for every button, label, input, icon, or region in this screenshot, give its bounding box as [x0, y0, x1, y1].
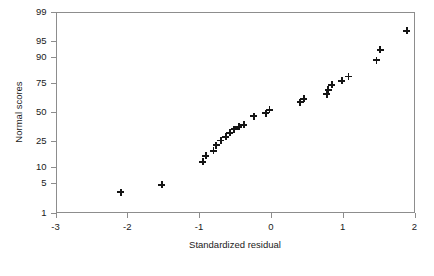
x-tick-label: -1: [184, 222, 214, 232]
y-tick-label: 1: [20, 208, 47, 218]
data-point-marker: [202, 152, 209, 159]
y-tick-mark: [51, 112, 56, 113]
data-point-marker: [377, 46, 384, 53]
marker-vertical-stroke: [269, 106, 271, 113]
y-tick-label: 95: [20, 36, 47, 46]
y-tick-mark: [51, 141, 56, 142]
x-tick-mark: [199, 213, 200, 218]
x-tick-mark: [127, 213, 128, 218]
y-tick-mark: [51, 83, 56, 84]
marker-vertical-stroke: [303, 95, 305, 102]
x-tick-label: -2: [112, 222, 142, 232]
data-point-marker: [250, 113, 257, 120]
x-tick-label: 0: [256, 222, 286, 232]
x-tick-label: 1: [328, 222, 358, 232]
marker-vertical-stroke: [341, 77, 343, 84]
marker-vertical-stroke: [243, 121, 245, 128]
y-tick-mark: [51, 57, 56, 58]
data-point-marker: [240, 121, 247, 128]
marker-vertical-stroke: [205, 152, 207, 159]
y-tick-mark: [51, 213, 56, 214]
x-tick-label: -3: [41, 222, 71, 232]
plot-area: [56, 12, 415, 213]
data-point-marker: [158, 181, 165, 188]
marker-vertical-stroke: [348, 73, 350, 80]
y-tick-label: 5: [20, 178, 47, 188]
data-point-marker: [266, 106, 273, 113]
data-point-marker: [403, 27, 410, 34]
data-point-marker: [328, 81, 335, 88]
marker-vertical-stroke: [120, 189, 122, 196]
y-tick-label: 90: [20, 52, 47, 62]
normal-probability-plot: 1510255075909599 -3-2-1012 Standardized …: [0, 0, 434, 276]
y-tick-label: 10: [20, 162, 47, 172]
marker-vertical-stroke: [161, 181, 163, 188]
y-tick-mark: [51, 183, 56, 184]
x-tick-mark: [56, 213, 57, 218]
marker-vertical-stroke: [379, 46, 381, 53]
marker-vertical-stroke: [376, 57, 378, 64]
x-tick-label: 2: [400, 222, 430, 232]
marker-vertical-stroke: [331, 81, 333, 88]
data-point-marker: [345, 73, 352, 80]
data-point-marker: [117, 189, 124, 196]
x-tick-mark: [271, 213, 272, 218]
x-tick-mark: [343, 213, 344, 218]
marker-vertical-stroke: [406, 27, 408, 34]
y-axis-title: Normal scores: [14, 81, 24, 142]
y-tick-mark: [51, 41, 56, 42]
y-tick-label: 99: [20, 7, 47, 17]
x-tick-mark: [415, 213, 416, 218]
x-axis-title: Standardized residual: [189, 240, 281, 250]
y-tick-mark: [51, 167, 56, 168]
data-point-marker: [373, 57, 380, 64]
marker-vertical-stroke: [253, 113, 255, 120]
y-tick-mark: [51, 12, 56, 13]
data-point-marker: [300, 95, 307, 102]
